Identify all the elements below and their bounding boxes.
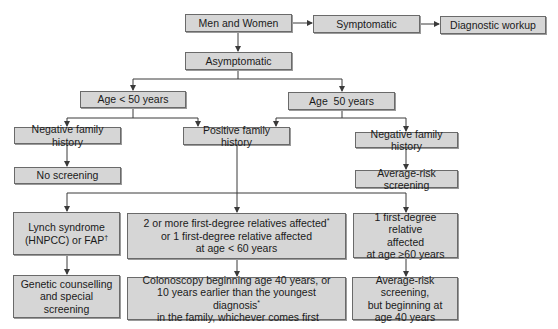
node-label: Diagnostic workup <box>450 19 536 32</box>
node-label-text: 2 or more first-degree relatives affecte… <box>144 217 327 229</box>
node-label: Asymptomatic <box>206 55 272 68</box>
node-lynch-syndrome: Lynch syndrome (HNPCC) or FAP† <box>13 212 120 255</box>
node-two-or-more-relatives: 2 or more first-degree relatives affecte… <box>127 213 346 259</box>
node-label-line: at age < 60 years <box>144 242 330 255</box>
node-label-line: or 1 first-degree relative affected <box>144 230 330 243</box>
node-label: Average-risk screening <box>359 167 454 192</box>
node-label: Men and Women <box>199 17 279 30</box>
node-label: Positive family history <box>187 124 286 149</box>
node-label-line: diagnosis* in the family, whichever come… <box>131 299 342 324</box>
node-label-line: Colonoscopy beginning age 40 years, or <box>131 274 342 287</box>
node-age-50-plus: Age 50 years <box>288 92 395 110</box>
node-one-first-degree-relative: 1 first-degree relative affected at age … <box>353 213 458 258</box>
node-men-and-women: Men and Women <box>185 14 292 32</box>
node-label-line: 2 or more first-degree relatives affecte… <box>144 217 330 230</box>
node-label: Symptomatic <box>336 18 397 31</box>
node-label-line: and special screening <box>17 290 116 315</box>
node-genetic-counselling: Genetic counselling and special screenin… <box>13 275 120 318</box>
node-label-line: at age ≥60 years <box>357 248 454 261</box>
node-label: Negative family history <box>18 123 117 148</box>
node-label-line: 10 years earlier than the youngest <box>131 286 342 299</box>
footnote-asterisk: * <box>257 298 260 305</box>
node-label-line: but beginning at <box>356 299 454 312</box>
node-average-risk-from-40: Average-risk screening, but beginning at… <box>352 277 458 320</box>
node-label-line: 1 first-degree relative <box>357 211 454 236</box>
node-average-risk-screening: Average-risk screening <box>355 170 458 188</box>
node-label: Negative family history <box>359 128 454 153</box>
node-asymptomatic: Asymptomatic <box>185 52 292 70</box>
node-label-text: (HNPCC) or FAP <box>25 234 104 246</box>
node-label: No screening <box>37 169 99 182</box>
node-label-line: Average-risk screening, <box>356 274 454 299</box>
node-label-line: age 40 years <box>356 311 454 324</box>
node-negative-family-history-left: Negative family history <box>14 127 121 144</box>
node-label-line: Lynch syndrome <box>25 221 108 234</box>
node-label: Age < 50 years <box>98 93 169 106</box>
node-symptomatic: Symptomatic <box>313 15 420 33</box>
footnote-asterisk: * <box>327 217 330 224</box>
node-no-screening: No screening <box>14 167 121 184</box>
node-label: Age 50 years <box>309 95 374 108</box>
node-label-text: diagnosis <box>213 299 257 311</box>
node-diagnostic-workup: Diagnostic workup <box>440 16 546 34</box>
node-label-line: (HNPCC) or FAP† <box>25 234 108 247</box>
node-positive-family-history: Positive family history <box>183 127 290 145</box>
node-age-under-50: Age < 50 years <box>80 91 186 108</box>
footnote-dagger: † <box>104 233 108 240</box>
node-colonoscopy: Colonoscopy beginning age 40 years, or 1… <box>127 277 346 320</box>
node-negative-family-history-right: Negative family history <box>355 132 458 148</box>
node-label-line: Genetic counselling <box>17 278 116 291</box>
node-label-line: affected <box>357 236 454 249</box>
node-label-text: in the family, whichever comes first <box>154 311 319 323</box>
